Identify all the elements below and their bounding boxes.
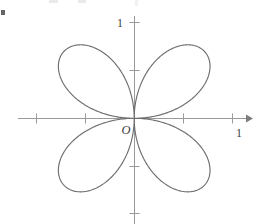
cut-text-fragment-2 [78, 0, 86, 3]
cut-text-fragment-1 [49, 0, 58, 3]
origin-label: O [121, 123, 130, 137]
y-axis-tick-label-one: 1 [117, 16, 123, 30]
rose-curve-plot: 1 1 O [0, 0, 254, 224]
x-axis-arrow-icon [246, 115, 253, 123]
polar-rose-figure: 1 1 O [0, 0, 254, 224]
cut-text-fragment-3 [135, 0, 138, 6]
x-axis-tick-label-one: 1 [236, 126, 242, 140]
bullet-marker-icon [1, 10, 5, 15]
